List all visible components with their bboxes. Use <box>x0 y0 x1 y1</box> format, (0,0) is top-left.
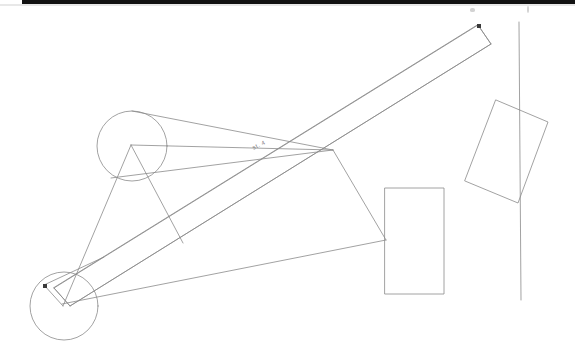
tilted-rectangle <box>465 100 548 203</box>
line-diagram-svg <box>0 0 575 362</box>
polygons-group <box>54 25 491 306</box>
upper-apex-left-leg <box>63 145 131 306</box>
vertex-to-upper-apex <box>131 145 333 150</box>
rectangles-group <box>385 100 548 294</box>
upper-apex-right-leg <box>131 145 183 243</box>
upper-circle-to-vertex <box>132 111 333 150</box>
lower-pivot-marker <box>43 284 47 288</box>
vertex-to-rect-left <box>333 150 386 240</box>
lower-horizontal-tie <box>62 240 386 304</box>
scan-smudge-a <box>470 8 475 12</box>
vertical-line <box>519 22 521 300</box>
upright-rectangle <box>385 188 444 294</box>
mid-chord-left <box>111 150 333 178</box>
beam-tip-marker <box>477 24 481 28</box>
beam-top-edge <box>54 25 478 288</box>
scan-smudge-b <box>527 6 529 13</box>
long-beam <box>54 25 491 306</box>
lines-group <box>44 22 521 306</box>
diagram-canvas: st. 4 <box>0 0 575 362</box>
